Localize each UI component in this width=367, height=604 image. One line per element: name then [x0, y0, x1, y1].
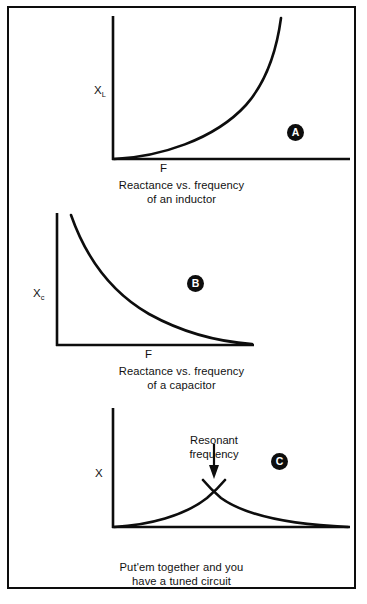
panel-c-curve-xc: [203, 480, 348, 527]
panel-b-caption: Reactance vs. frequency of a capacitor: [9, 365, 354, 392]
panel-b-y-axis-label: Xc: [33, 288, 44, 302]
panel-a-caption: Reactance vs. frequency of an inductor: [9, 179, 354, 206]
panel-c-y-axis-label: X: [95, 468, 103, 482]
panel-a-curve-xl: [114, 18, 281, 159]
panel-c-y-axis-label-text: X: [95, 467, 103, 479]
panel-tuned-circuit: X Resonant frequency C Put'em together a…: [9, 406, 354, 591]
panel-inductor: XL F A Reactance vs. frequency of an ind…: [9, 8, 354, 198]
resonant-frequency-annotation: Resonant frequency: [169, 434, 259, 461]
panel-a-plot: [9, 8, 354, 173]
panel-a-y-axis-subscript: L: [102, 90, 106, 99]
figure-border: XL F A Reactance vs. frequency of an ind…: [7, 6, 356, 589]
panel-a-x-axis-label: F: [160, 163, 167, 175]
panel-b-x-axis-label: F: [145, 349, 152, 361]
panel-b-y-axis-label-text: X: [33, 287, 41, 299]
panel-a-y-axis-label-text: X: [94, 84, 102, 96]
panel-c-plot: [9, 406, 354, 556]
panel-b-plot: [9, 203, 354, 358]
panel-c-caption: Put'em together and you have a tuned cir…: [9, 561, 354, 588]
panel-a-y-axis-label: XL: [94, 85, 106, 99]
panel-badge-a: A: [287, 124, 304, 141]
resonant-arrow-head: [209, 465, 219, 479]
panel-badge-b: B: [187, 275, 204, 292]
panel-badge-c: C: [271, 453, 288, 470]
panel-capacitor: Xc F B Reactance vs. frequency of a capa…: [9, 203, 354, 398]
panel-b-y-axis-subscript: c: [41, 293, 45, 302]
panel-b-curve-xc: [71, 215, 252, 344]
figure-page: XL F A Reactance vs. frequency of an ind…: [0, 0, 367, 604]
